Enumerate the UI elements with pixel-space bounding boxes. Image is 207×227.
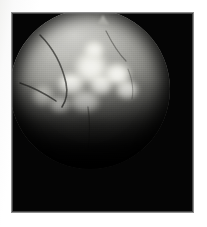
image-frame: [11, 12, 194, 213]
scan-grain-overlay: [11, 12, 170, 169]
figure-root: [0, 0, 207, 227]
circular-field-of-view: [11, 12, 170, 169]
superior-apex-bump-icon: [97, 15, 109, 25]
